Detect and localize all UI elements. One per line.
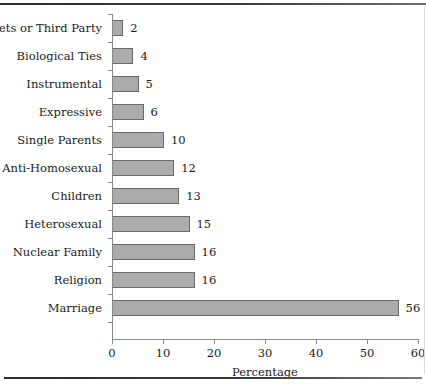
bar-row: Anti-Homosexual12 (112, 154, 418, 182)
x-tick-mark (214, 339, 215, 344)
y-tick-mark (108, 322, 112, 323)
bar-row: Expressive6 (112, 98, 418, 126)
bar-row: Pets or Third Party2 (112, 14, 418, 42)
bar (113, 104, 144, 120)
y-tick-mark (108, 182, 112, 183)
category-label: Instrumental (0, 76, 112, 92)
x-tick-label: 10 (156, 346, 171, 360)
bar-value-label: 12 (175, 160, 196, 176)
bar-value-label: 6 (145, 104, 158, 120)
bar (113, 20, 123, 36)
y-tick-mark (108, 14, 112, 15)
x-tick-mark (265, 339, 266, 344)
bar-row: Biological Ties4 (112, 42, 418, 70)
category-label: Anti-Homosexual (0, 160, 112, 176)
bar-value-label: 13 (180, 188, 201, 204)
category-label: Expressive (0, 104, 112, 120)
bar-row: Marriage56 (112, 294, 418, 322)
bar (113, 216, 190, 232)
x-tick-mark (418, 339, 419, 344)
bar-value-label: 10 (165, 132, 186, 148)
bar-value-label: 16 (196, 244, 217, 260)
y-tick-mark (108, 154, 112, 155)
bar-value-label: 16 (196, 272, 217, 288)
y-tick-mark (108, 210, 112, 211)
x-tick-label: 30 (258, 346, 273, 360)
y-tick-mark (108, 238, 112, 239)
category-label: Single Parents (0, 132, 112, 148)
category-label: Biological Ties (0, 48, 112, 64)
category-label: Religion (0, 272, 112, 288)
bar-value-label: 4 (134, 48, 147, 64)
bar-value-label: 2 (124, 20, 137, 36)
category-label: Pets or Third Party (0, 20, 112, 36)
category-label: Marriage (0, 300, 112, 316)
bar-row: Nuclear Family16 (112, 238, 418, 266)
plot-area: Pets or Third Party2Biological Ties4Inst… (112, 14, 418, 339)
x-tick-label: 50 (360, 346, 375, 360)
bar (113, 48, 133, 64)
y-tick-mark (108, 98, 112, 99)
x-tick-label: 40 (309, 346, 324, 360)
category-label: Nuclear Family (0, 244, 112, 260)
x-tick-label: 20 (207, 346, 222, 360)
bar-value-label: 56 (400, 300, 421, 316)
category-label: Children (0, 188, 112, 204)
y-tick-mark (108, 266, 112, 267)
bar (113, 300, 399, 316)
bar-row: Children13 (112, 182, 418, 210)
x-tick-mark (316, 339, 317, 344)
top-divider-rule (0, 3, 426, 5)
right-frame-line (424, 6, 425, 374)
bar (113, 272, 195, 288)
bar-row: Instrumental5 (112, 70, 418, 98)
bar (113, 76, 139, 92)
bar-row: Single Parents10 (112, 126, 418, 154)
bottom-divider-rule (4, 377, 422, 379)
bar-row: Heterosexual15 (112, 210, 418, 238)
x-tick-mark (112, 339, 113, 344)
x-tick-mark (163, 339, 164, 344)
bar-value-label: 5 (140, 76, 153, 92)
category-label: Heterosexual (0, 216, 112, 232)
y-tick-mark (108, 70, 112, 71)
bar-value-label: 15 (191, 216, 212, 232)
y-tick-mark (108, 42, 112, 43)
x-tick-mark (367, 339, 368, 344)
bar-row: Religion16 (112, 266, 418, 294)
y-tick-mark (108, 294, 112, 295)
bar (113, 132, 164, 148)
x-tick-label: 0 (108, 346, 115, 360)
y-tick-mark (108, 126, 112, 127)
bar (113, 188, 179, 204)
bar (113, 160, 174, 176)
bar-chart-figure: Pets or Third Party2Biological Ties4Inst… (0, 0, 426, 388)
bar (113, 244, 195, 260)
